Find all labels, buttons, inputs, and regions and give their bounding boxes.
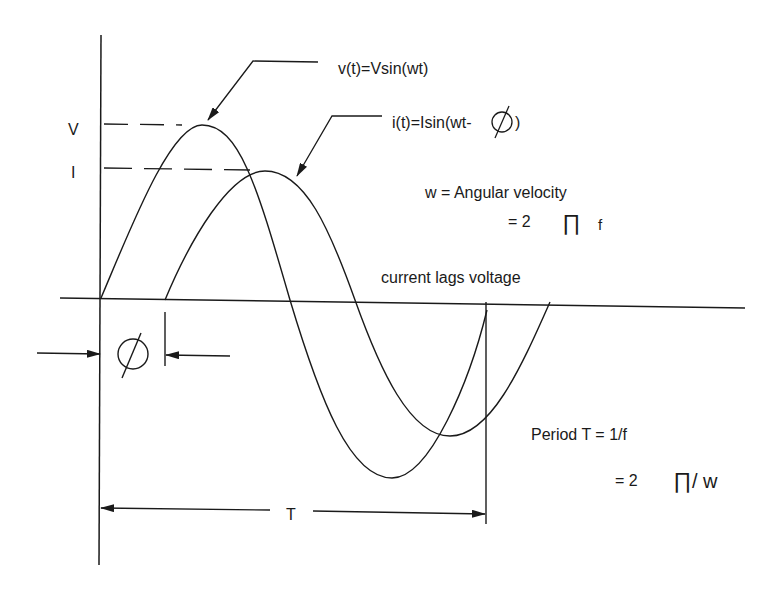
current-equation-suffix: ) — [515, 114, 520, 131]
waveform-diagram: T V I v(t)=Vsin(wt) i(t)=Isin(wt- ) w = … — [0, 0, 771, 592]
period-symbol: T — [286, 506, 296, 523]
period-arrow-right — [313, 511, 485, 514]
period-arrow-left — [101, 508, 270, 510]
v-peak-guide — [104, 124, 182, 125]
time-axis — [60, 298, 745, 308]
vertical-axis — [99, 35, 101, 565]
i-peak-guide — [104, 168, 250, 170]
angular-eq-suffix: f — [598, 216, 603, 233]
phase-arrow-left — [37, 353, 100, 354]
current-equation-prefix: i(t)=Isin(wt- — [392, 114, 472, 131]
period-eq-suffix: / w — [692, 470, 718, 492]
angular-eq-prefix: = 2 — [508, 213, 531, 230]
v-peak-label: V — [68, 121, 79, 138]
period-eq-pi: ∏ — [673, 468, 691, 493]
phase-arrow-right — [166, 355, 230, 356]
i-peak-label: I — [71, 164, 75, 181]
voltage-equation: v(t)=Vsin(wt) — [338, 60, 428, 77]
angular-velocity-label: w = Angular velocity — [424, 184, 567, 201]
current-callout-leader — [297, 116, 382, 176]
phase-symbol-icon — [118, 333, 148, 378]
angular-eq-pi: ∏ — [562, 210, 580, 235]
current-phase-symbol-icon — [492, 106, 512, 138]
current-curve — [165, 171, 550, 436]
lag-note: current lags voltage — [381, 269, 521, 286]
period-eq-prefix: = 2 — [615, 472, 638, 489]
period-label: Period T = 1/f — [531, 426, 627, 443]
voltage-callout-leader — [208, 61, 318, 120]
